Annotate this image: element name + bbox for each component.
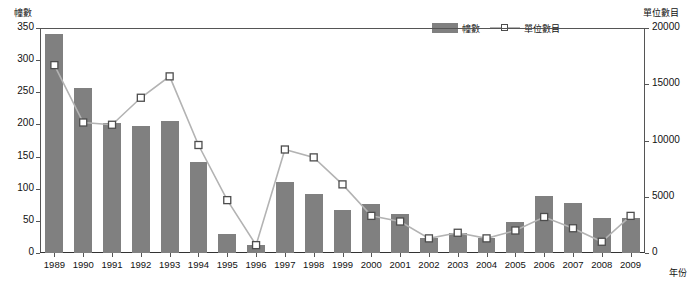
x-tick-label-1989: 1989: [38, 259, 70, 270]
line-marker-2008: [598, 238, 605, 245]
line-marker-1992: [137, 94, 144, 101]
x-tick-mark: [170, 253, 171, 257]
x-tick-mark: [573, 253, 574, 257]
x-tick-mark: [141, 253, 142, 257]
right-tick-mark: [645, 28, 649, 29]
x-tick-mark: [429, 253, 430, 257]
right-tick-mark: [645, 141, 649, 142]
line-marker-1991: [109, 121, 116, 128]
left-tick-label: 300: [0, 53, 34, 64]
right-tick-label: 10000: [652, 134, 691, 145]
x-axis-title: 年份: [669, 266, 687, 279]
right-tick-label: 20000: [652, 21, 691, 32]
right-tick-mark: [645, 197, 649, 198]
line-marker-2006: [541, 214, 548, 221]
left-tick-label: 250: [0, 85, 34, 96]
x-tick-label-1998: 1998: [298, 259, 330, 270]
left-tick-label: 200: [0, 117, 34, 128]
x-tick-label-2009: 2009: [615, 259, 647, 270]
right-tick-mark: [645, 253, 649, 254]
x-tick-mark: [54, 253, 55, 257]
x-tick-label-2000: 2000: [355, 259, 387, 270]
right-tick-label: 5000: [652, 190, 691, 201]
x-tick-label-2002: 2002: [413, 259, 445, 270]
x-tick-mark: [112, 253, 113, 257]
left-tick-label: 50: [0, 214, 34, 225]
x-tick-label-1995: 1995: [211, 259, 243, 270]
line-marker-2005: [512, 227, 519, 234]
plot-area: [40, 28, 645, 253]
x-tick-label-1990: 1990: [67, 259, 99, 270]
right-tick-label: 0: [652, 246, 691, 257]
x-tick-label-1996: 1996: [240, 259, 272, 270]
line-marker-1996: [253, 242, 260, 249]
x-tick-label-2008: 2008: [586, 259, 618, 270]
x-tick-mark: [314, 253, 315, 257]
x-tick-mark: [227, 253, 228, 257]
x-tick-label-2007: 2007: [557, 259, 589, 270]
right-tick-label: 15000: [652, 77, 691, 88]
x-tick-label-1994: 1994: [182, 259, 214, 270]
left-tick-label: 150: [0, 150, 34, 161]
x-tick-mark: [198, 253, 199, 257]
chart-container: 幢數 單位數目 年份 幢數 單位數目 050100150200250300350…: [0, 0, 691, 281]
x-tick-mark: [285, 253, 286, 257]
x-tick-mark: [631, 253, 632, 257]
line-marker-1999: [339, 181, 346, 188]
x-tick-label-1999: 1999: [327, 259, 359, 270]
left-tick-label: 350: [0, 21, 34, 32]
x-tick-label-2004: 2004: [471, 259, 503, 270]
right-tick-mark: [645, 84, 649, 85]
line-marker-2004: [483, 235, 490, 242]
right-axis-title: 單位數目: [643, 6, 679, 19]
line-marker-1997: [281, 146, 288, 153]
x-tick-label-1997: 1997: [269, 259, 301, 270]
line-marker-2000: [368, 212, 375, 219]
line-series-layer: [40, 28, 645, 253]
left-axis-title: 幢數: [14, 6, 32, 19]
x-tick-label-1991: 1991: [96, 259, 128, 270]
line-marker-2009: [627, 212, 634, 219]
x-tick-mark: [487, 253, 488, 257]
left-tick-mark: [36, 253, 40, 254]
line-marker-1995: [224, 197, 231, 204]
left-tick-label: 100: [0, 182, 34, 193]
line-marker-2002: [425, 235, 432, 242]
x-tick-mark: [458, 253, 459, 257]
x-tick-label-1992: 1992: [125, 259, 157, 270]
x-tick-mark: [83, 253, 84, 257]
x-tick-label-2001: 2001: [384, 259, 416, 270]
x-tick-mark: [544, 253, 545, 257]
line-marker-1989: [51, 62, 58, 69]
line-marker-1993: [166, 73, 173, 80]
x-tick-label-2006: 2006: [528, 259, 560, 270]
x-tick-mark: [256, 253, 257, 257]
x-tick-mark: [515, 253, 516, 257]
x-tick-mark: [400, 253, 401, 257]
left-tick-label: 0: [0, 246, 34, 257]
line-marker-1990: [80, 119, 87, 126]
line-marker-1998: [310, 154, 317, 161]
line-marker-2007: [569, 225, 576, 232]
x-tick-label-2003: 2003: [442, 259, 474, 270]
x-tick-mark: [371, 253, 372, 257]
x-tick-mark: [602, 253, 603, 257]
x-tick-label-2005: 2005: [499, 259, 531, 270]
line-marker-2001: [397, 218, 404, 225]
x-tick-mark: [343, 253, 344, 257]
x-tick-label-1993: 1993: [154, 259, 186, 270]
line-marker-2003: [454, 229, 461, 236]
line-marker-1994: [195, 142, 202, 149]
